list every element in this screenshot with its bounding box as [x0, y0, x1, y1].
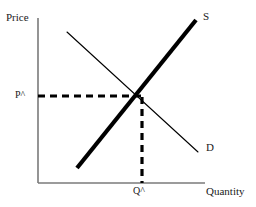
equilibrium-price-tick-label: P^ — [15, 90, 25, 100]
x-axis-label: Quantity — [206, 186, 245, 197]
chart-canvas — [0, 0, 256, 207]
supply-demand-chart: Price Quantity P^ Q^ S D — [0, 0, 256, 207]
y-axis-label: Price — [6, 12, 29, 23]
equilibrium-quantity-tick-label: Q^ — [133, 186, 145, 196]
demand-curve-label: D — [206, 142, 214, 153]
supply-curve-label: S — [203, 11, 209, 22]
